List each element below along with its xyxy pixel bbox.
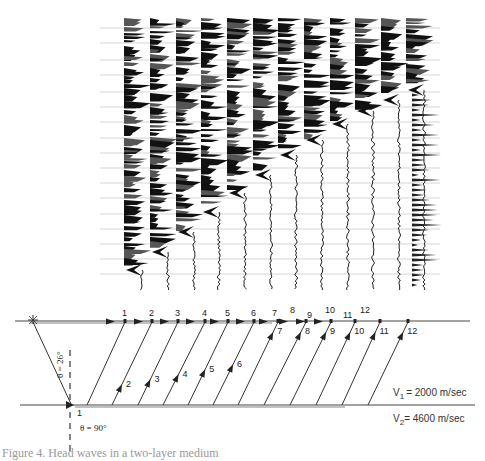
head-wave-ray — [138, 322, 178, 405]
figure-caption: Figure 4. Head waves in a two-layer medi… — [2, 446, 219, 461]
ray-arrow-icon — [116, 383, 125, 393]
seismogram-record — [100, 18, 442, 290]
first-arrival-chevron-icon — [383, 94, 399, 106]
seismic-trace — [124, 18, 151, 290]
receiver-label: 4 — [202, 308, 207, 318]
ray-arrow-icon — [199, 368, 208, 378]
v2-velocity-label: V2= 4600 m/sec — [393, 413, 464, 427]
receiver-label: 11 — [343, 310, 352, 320]
head-wave-ray — [87, 322, 125, 405]
critical-angle-label: θ = 26° — [55, 351, 65, 378]
receiver-label: 6 — [251, 308, 256, 318]
surface-wave-arrow-icon — [106, 319, 115, 325]
seismic-trace — [278, 18, 306, 289]
ray-label: 12 — [407, 326, 417, 336]
ray-arrow-icon — [397, 331, 406, 341]
receiver-label: 10 — [325, 305, 335, 315]
first-arrival-chevron-icon — [255, 169, 271, 181]
ray-arrow-icon — [369, 331, 378, 341]
ray-arrow-icon — [172, 373, 181, 383]
receiver-geophone-icon — [151, 319, 154, 323]
ray-arrow-icon — [295, 331, 304, 341]
receiver-label: 8 — [290, 305, 295, 315]
first-arrival-chevron-icon — [152, 246, 168, 258]
ray-arrow-icon — [267, 331, 276, 341]
receiver-label: 9 — [307, 310, 312, 320]
receiver-geophone-icon — [354, 319, 357, 323]
seismic-trace — [176, 18, 204, 290]
receiver-geophone-icon — [204, 319, 207, 323]
ray-label: 7 — [277, 326, 282, 336]
interface-angle-label: θ = 90° — [80, 423, 107, 433]
surface-wave-arrow-icon — [236, 319, 245, 325]
v1-velocity-label: V1= 2000 m/sec — [393, 387, 466, 401]
receiver-geophone-icon — [379, 319, 382, 323]
head-wave-ray — [163, 322, 205, 405]
ray-arrow-icon — [344, 331, 353, 341]
surface-wave-arrow-icon — [259, 319, 268, 325]
surface-wave-arrow-icon — [210, 319, 219, 325]
seismic-trace — [355, 18, 383, 289]
receiver-geophone-icon — [227, 319, 230, 323]
seismic-trace — [201, 18, 229, 290]
first-arrival-chevron-icon — [408, 84, 424, 96]
critical-ray-line — [33, 322, 71, 404]
seismic-trace — [150, 18, 177, 290]
seismic-trace — [253, 18, 280, 289]
head-wave-ray — [112, 322, 152, 405]
ray-label: 10 — [354, 326, 364, 336]
receiver-label: 12 — [360, 305, 370, 315]
receiver-label: 7 — [272, 308, 277, 318]
receiver-label: 1 — [122, 308, 127, 318]
surface-wave-arrow-icon — [160, 319, 169, 325]
receiver-geophone-icon — [177, 319, 180, 323]
ray-label: 4 — [183, 369, 188, 379]
interface-point-label: 1 — [77, 408, 82, 418]
receiver-geophone-icon — [124, 319, 127, 323]
ray-label: 2 — [126, 379, 131, 389]
ray-label: 11 — [379, 326, 388, 336]
seismic-trace — [304, 18, 331, 290]
head-wave-ray — [188, 322, 228, 405]
receiver-label: 3 — [175, 308, 180, 318]
ray-label: 3 — [154, 374, 159, 384]
surface-wave-arrow-icon — [186, 319, 195, 325]
ray-arrow-icon — [320, 331, 329, 341]
surface-wave-arrow-icon — [314, 319, 323, 325]
surface-wave-arrow-icon — [279, 319, 288, 325]
ray-diagram: θ = 26° θ = 90° 1 1223344556677889910101… — [15, 305, 475, 452]
seismic-trace — [381, 18, 409, 290]
receiver-label: 5 — [225, 308, 230, 318]
receiver-geophone-icon — [407, 319, 410, 323]
first-arrival-chevron-icon — [280, 149, 296, 161]
receiver-label: 2 — [149, 308, 154, 318]
first-arrival-chevron-icon — [203, 206, 219, 218]
ray-arrow-icon — [227, 363, 236, 373]
ray-label: 6 — [237, 359, 242, 369]
surface-wave-arrow-icon — [134, 319, 143, 325]
ray-label: 9 — [330, 326, 335, 336]
seismic-trace — [227, 18, 254, 289]
head-wave-rays: 12233445566778899101011111212 — [87, 305, 417, 405]
ray-label: 8 — [305, 326, 310, 336]
receiver-geophone-icon — [330, 319, 333, 323]
seismic-trace — [330, 18, 354, 290]
ray-label: 5 — [209, 364, 214, 374]
surface-wave-arrow-icon — [296, 319, 305, 325]
receiver-geophone-icon — [253, 319, 256, 323]
ray-arrow-icon — [144, 378, 153, 388]
head-wave-ray — [213, 322, 254, 405]
